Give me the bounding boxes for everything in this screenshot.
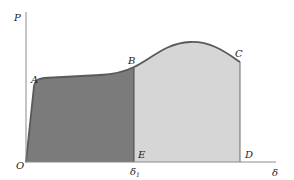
origin-label: O — [16, 160, 24, 171]
delta-1-subscript: 1 — [136, 171, 140, 178]
point-label-C: C — [235, 48, 243, 59]
region-OABE — [26, 67, 134, 162]
diagram-canvas: P δ O A B C D E δ1 — [0, 0, 294, 180]
x-axis-label: δ — [272, 167, 278, 178]
point-label-D: D — [244, 149, 253, 160]
point-label-A: A — [30, 74, 38, 85]
delta-1-label: δ1 — [130, 166, 140, 178]
region-EBCD — [134, 42, 240, 162]
point-label-B: B — [127, 55, 135, 66]
load-deformation-diagram: P δ O A B C D E δ1 — [0, 0, 294, 180]
point-label-E: E — [137, 149, 146, 160]
y-axis-label: P — [13, 12, 21, 23]
